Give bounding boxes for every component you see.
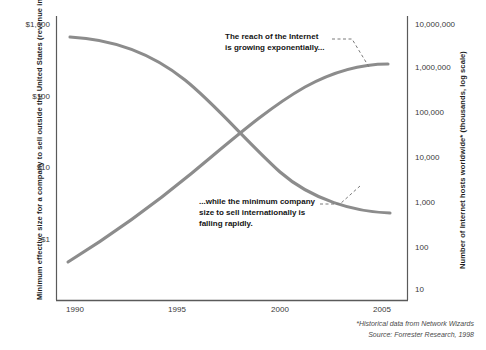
y-axis-right-tick-1000000: 1,000,000 — [415, 63, 475, 72]
y-axis-right-tick-10000000: 10,000,000 — [415, 20, 475, 29]
series-line-company-size — [70, 37, 390, 213]
y-axis-right-tick-10000: 10,000 — [415, 153, 475, 162]
y-axis-left-tick-10: $10 — [4, 163, 50, 172]
company-size-annotation: ...while the minimum company size to sel… — [199, 196, 315, 229]
x-axis-tick-1995: 1995 — [153, 305, 201, 314]
y-axis-right-tick-10: 10 — [415, 285, 475, 294]
x-axis-tick-2000: 2000 — [256, 305, 304, 314]
footnote-historical-data: *Historical data from Network Wizards — [356, 320, 474, 327]
y-axis-left-tick-100: $100 — [4, 92, 50, 101]
y-axis-right-tick-100: 100 — [415, 243, 475, 252]
internet-growth-annotation: The reach of the Internet is growing exp… — [225, 31, 324, 53]
x-axis-tick-1990: 1990 — [51, 305, 99, 314]
leader-line-internet-growth — [332, 39, 369, 67]
y-axis-left-title: Minimum effective size for a company to … — [35, 10, 45, 300]
chart-figure: Minimum effective size for a company to … — [0, 0, 486, 350]
y-axis-left-tick-1: $1 — [4, 235, 50, 244]
x-axis-tick-2005: 2005 — [358, 305, 406, 314]
y-axis-left-tick-1000: $1,000 — [4, 20, 50, 29]
series-line-internet-hosts — [68, 64, 388, 262]
footnote-source: Source: Forrester Research, 1998 — [368, 331, 474, 338]
y-axis-right-tick-100000: 100,000 — [415, 108, 475, 117]
y-axis-right-tick-1000: 1,000 — [415, 198, 475, 207]
